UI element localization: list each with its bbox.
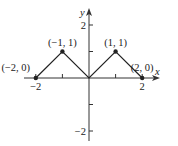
y-tick-label: −2 <box>75 126 86 137</box>
x-tick-label: 2 <box>140 81 145 92</box>
labels: −222−2xy(−2, 0)(−1, 1)(1, 1)(2, 0) <box>1 7 160 137</box>
data-point-marker <box>60 49 64 53</box>
data-point-marker <box>113 49 117 53</box>
data-point-marker <box>34 76 38 80</box>
point-annotation: (1, 1) <box>104 37 127 49</box>
point-annotation: (−2, 0) <box>1 62 30 74</box>
graph: −222−2xy(−2, 0)(−1, 1)(1, 1)(2, 0) <box>0 0 178 146</box>
data-point-marker <box>140 76 144 80</box>
y-tick-label: 2 <box>81 20 86 31</box>
x-tick-label: −2 <box>30 81 41 92</box>
point-annotation: (−1, 1) <box>48 37 77 49</box>
x-axis-label: x <box>154 66 160 77</box>
point-annotation: (2, 0) <box>131 62 154 74</box>
y-axis-label: y <box>79 7 85 18</box>
